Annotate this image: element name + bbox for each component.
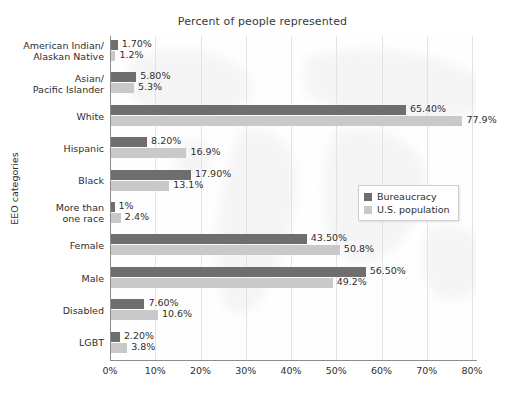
bar[interactable] <box>110 245 340 255</box>
bar[interactable] <box>110 299 144 309</box>
bar-group: 5.80%5.3% <box>110 68 476 100</box>
bar[interactable] <box>110 116 462 126</box>
bar[interactable] <box>110 213 121 223</box>
y-axis-tick-label: Asian/ Pacific Islander <box>0 73 104 95</box>
x-axis-tick-label: 0% <box>102 365 117 376</box>
chart-title: Percent of people represented <box>0 15 525 28</box>
bar-group: 7.60%10.6% <box>110 295 476 327</box>
bar-value-label: 8.20% <box>151 136 181 146</box>
bar-value-label: 49.2% <box>337 277 367 287</box>
x-axis-line <box>110 360 477 361</box>
bar-value-label: 2.20% <box>124 331 154 341</box>
y-axis-tick-label: Black <box>0 175 104 186</box>
bar-group: 56.50%49.2% <box>110 263 476 295</box>
x-axis-tick-label: 40% <box>280 365 301 376</box>
legend-swatch-icon <box>364 193 372 201</box>
bar-value-label: 77.9% <box>466 115 496 125</box>
bar-value-label: 1% <box>119 201 134 211</box>
bar[interactable] <box>110 83 134 93</box>
legend-label: Bureaucracy <box>377 191 437 202</box>
chart-legend: Bureaucracy U.S. population <box>358 185 459 221</box>
y-axis-tick-labels: American Indian/ Alaskan NativeAsian/ Pa… <box>0 36 104 360</box>
bar-value-label: 5.3% <box>138 82 162 92</box>
x-axis-tick-label: 70% <box>416 365 437 376</box>
y-axis-tick-label: Hispanic <box>0 143 104 154</box>
x-axis-tick-label: 20% <box>190 365 211 376</box>
bar-value-label: 1.70% <box>122 39 152 49</box>
legend-swatch-icon <box>364 206 372 214</box>
bar[interactable] <box>110 267 366 277</box>
y-axis-tick-label: Female <box>0 240 104 251</box>
bar[interactable] <box>110 148 186 158</box>
bar-value-label: 16.9% <box>190 147 220 157</box>
bar-value-label: 65.40% <box>410 104 446 114</box>
bar-group: 65.40%77.9% <box>110 101 476 133</box>
bar-chart: Percent of people represented EEO catego… <box>0 0 525 398</box>
bar-value-label: 43.50% <box>311 233 347 243</box>
bar-value-label: 17.90% <box>195 169 231 179</box>
bar[interactable] <box>110 40 118 50</box>
bar-value-label: 5.80% <box>140 71 170 81</box>
bar-value-label: 10.6% <box>162 309 192 319</box>
y-axis-tick-label: American Indian/ Alaskan Native <box>0 40 104 62</box>
bar[interactable] <box>110 332 120 342</box>
legend-label: U.S. population <box>377 204 450 215</box>
x-axis-tick-label: 80% <box>461 365 482 376</box>
bar[interactable] <box>110 343 127 353</box>
bar-group: 8.20%16.9% <box>110 133 476 165</box>
bar-group: 43.50%50.8% <box>110 230 476 262</box>
bar[interactable] <box>110 234 307 244</box>
x-axis-tick-label: 60% <box>371 365 392 376</box>
bar-value-label: 1.2% <box>119 50 143 60</box>
bar[interactable] <box>110 181 169 191</box>
bar-value-label: 2.4% <box>125 212 149 222</box>
y-axis-tick-label: More than one race <box>0 202 104 224</box>
bar-value-label: 56.50% <box>370 266 406 276</box>
x-axis-tick-label: 10% <box>145 365 166 376</box>
y-axis-tick-label: Male <box>0 273 104 284</box>
y-axis-line <box>110 36 111 361</box>
legend-item-us-population[interactable]: U.S. population <box>364 203 450 216</box>
bar-group: 2.20%3.8% <box>110 328 476 360</box>
bar[interactable] <box>110 72 136 82</box>
y-axis-tick-label: White <box>0 111 104 122</box>
bar-value-label: 7.60% <box>148 298 178 308</box>
bar-value-label: 50.8% <box>344 244 374 254</box>
legend-item-bureaucracy[interactable]: Bureaucracy <box>364 190 450 203</box>
bar[interactable] <box>110 137 147 147</box>
bar-group: 1.70%1.2% <box>110 36 476 68</box>
x-axis-tick-label: 30% <box>235 365 256 376</box>
y-axis-tick-label: Disabled <box>0 305 104 316</box>
bar[interactable] <box>110 105 406 115</box>
bar[interactable] <box>110 310 158 320</box>
x-axis-tick-labels: 0%10%20%30%40%50%60%70%80% <box>0 365 525 381</box>
bar-value-label: 13.1% <box>173 180 203 190</box>
bar[interactable] <box>110 278 333 288</box>
bar-value-label: 3.8% <box>131 342 155 352</box>
x-axis-tick-label: 50% <box>326 365 347 376</box>
y-axis-tick-label: LGBT <box>0 337 104 348</box>
